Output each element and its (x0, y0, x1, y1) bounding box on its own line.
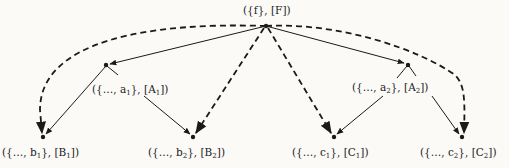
node-B1 (41, 135, 45, 139)
node-A1 (104, 63, 108, 67)
label-A1: ({…, a1}, [A1]) (92, 83, 168, 99)
diagram-edges (0, 0, 509, 168)
edge-A1-B2 (144, 96, 190, 134)
node-C1 (332, 135, 336, 139)
dashed-edge-F-B2 (196, 28, 264, 133)
tick-A2-left (397, 66, 407, 78)
label-root-F: ({f}, [F]) (243, 4, 291, 16)
edge-F-A1 (110, 26, 266, 64)
label-C1: ({…, c1}, [C1]) (292, 146, 368, 162)
dashed-edge-F-B1 (40, 25, 266, 133)
tree-diagram: ({f}, [F]) ({…, a1}, [A1]) ({…, a2}, [A2… (0, 0, 509, 168)
node-B2 (191, 135, 195, 139)
dashed-edge-F-C2 (266, 26, 464, 133)
node-C2 (460, 135, 464, 139)
edge-A2-C2 (432, 96, 459, 134)
edge-A2-C1 (337, 96, 383, 134)
label-B2: ({…, b2}, [B2]) (148, 146, 225, 162)
label-A2: ({…, a2}, [A2]) (352, 81, 428, 97)
label-C2: ({…, c2}, [C2]) (420, 146, 496, 162)
node-F (264, 24, 268, 28)
tick-A2-right (409, 66, 416, 76)
dashed-edge-F-C1 (268, 28, 331, 133)
edge-A1-B1 (46, 66, 106, 134)
node-A2 (406, 63, 410, 67)
label-B1: ({…, b1}, [B1]) (2, 146, 79, 162)
tick-A1 (107, 66, 118, 75)
